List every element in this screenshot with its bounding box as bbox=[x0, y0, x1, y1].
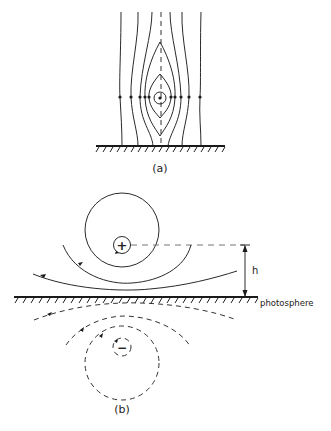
image-field-arc bbox=[34, 303, 237, 320]
photosphere-label: photosphere bbox=[260, 298, 314, 308]
o-point-dot bbox=[158, 96, 161, 99]
flux-rope-circle bbox=[85, 193, 159, 267]
image-flux-rope-circle bbox=[85, 326, 159, 400]
panel-b: + h bbox=[14, 193, 314, 416]
panel-b-label: (b) bbox=[114, 403, 130, 416]
photosphere-hatching bbox=[15, 298, 258, 303]
height-label: h bbox=[252, 265, 258, 276]
field-line bbox=[168, 12, 181, 146]
field-arc bbox=[33, 271, 237, 290]
direction-arrow bbox=[80, 327, 84, 332]
panel-a: (a) bbox=[96, 12, 225, 175]
direction-arrow bbox=[78, 262, 83, 266]
negative-charge-symbol: − bbox=[117, 341, 127, 355]
direction-arrow bbox=[99, 333, 103, 338]
field-line bbox=[131, 12, 138, 146]
closed-field-loop bbox=[149, 74, 171, 118]
image-field-arc bbox=[66, 316, 190, 346]
diagram-figure: (a) + h bbox=[0, 0, 331, 431]
field-line bbox=[182, 12, 189, 146]
surface-hatching bbox=[96, 147, 225, 152]
arrowhead-down bbox=[243, 290, 248, 297]
closed-field-loop bbox=[145, 42, 175, 136]
arrowhead-up bbox=[243, 245, 248, 252]
field-line bbox=[120, 12, 122, 146]
positive-charge-symbol: + bbox=[117, 238, 128, 253]
panel-a-label: (a) bbox=[152, 162, 167, 175]
field-line bbox=[200, 12, 201, 146]
